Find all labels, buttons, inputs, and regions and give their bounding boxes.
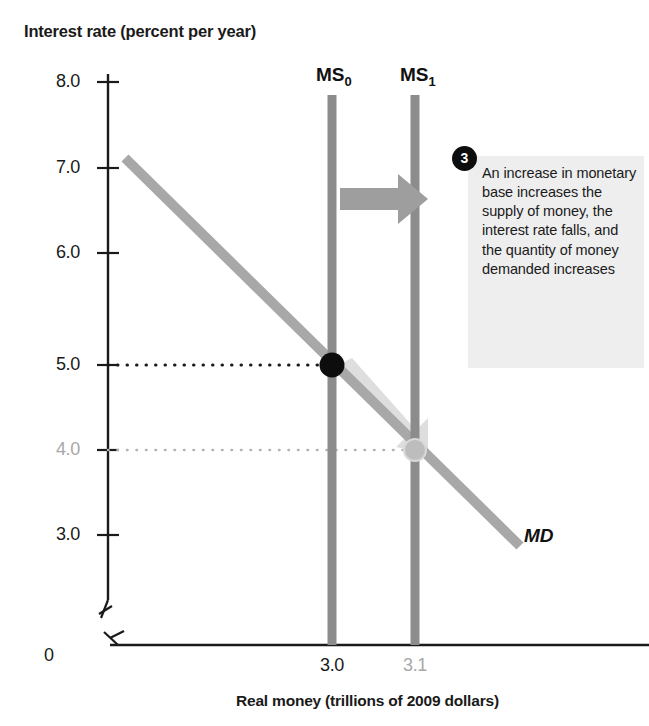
x-tick-label-3-1: 3.1: [385, 655, 445, 676]
annotation-callout: An increase in monetary base increases t…: [468, 156, 644, 368]
money-demand-curve: [125, 158, 520, 546]
y-axis-title: Interest rate (percent per year): [24, 22, 256, 41]
y-tick-label-7: 7.0: [28, 157, 80, 178]
x-tick-label-3-0: 3.0: [302, 655, 362, 676]
curve-label-ms0: MS0: [316, 64, 352, 89]
y-tick-label-3: 3.0: [28, 524, 80, 545]
x-axis-title: Real money (trillions of 2009 dollars): [236, 692, 499, 710]
y-tick-label-4: 4.0: [28, 439, 80, 460]
y-tick-label-6: 6.0: [28, 242, 80, 263]
y-tick-label-8: 8.0: [28, 71, 80, 92]
curve-label-ms1: MS1: [400, 64, 436, 89]
curve-label-md: MD: [524, 525, 554, 547]
axis-break-marks: [99, 600, 124, 645]
equilibrium-point-new: [404, 439, 426, 461]
curve-label-ms0-sub: 0: [345, 74, 352, 89]
equilibrium-point-initial: [320, 353, 345, 378]
curve-label-ms1-base: MS: [400, 64, 429, 85]
curve-label-ms1-sub: 1: [429, 74, 436, 89]
step-badge-3: 3: [452, 146, 477, 171]
curve-label-ms0-base: MS: [316, 64, 345, 85]
origin-label: 0: [44, 645, 54, 666]
money-market-figure: Interest rate (percent per year) Real mo…: [0, 0, 649, 726]
y-tick-label-5: 5.0: [28, 354, 80, 375]
annotation-callout-text: An increase in monetary base increases t…: [482, 164, 638, 279]
